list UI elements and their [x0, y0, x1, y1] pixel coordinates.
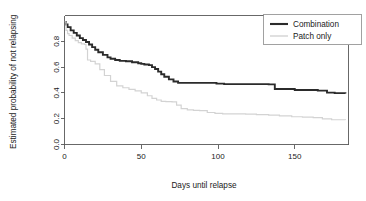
- chart-legend: Combination Patch only: [264, 15, 362, 45]
- chart-canvas: 0.00.20.40.60.8 050100150 Estimated prob…: [0, 0, 366, 201]
- y-axis: 0.00.20.40.60.8: [52, 35, 64, 150]
- x-tick-label: 100: [211, 152, 225, 161]
- x-axis-title: Days until relapse: [171, 181, 237, 190]
- y-tick-label: 0.4: [52, 87, 61, 99]
- x-tick-label: 150: [288, 152, 302, 161]
- x-axis: 050100150: [62, 145, 302, 161]
- y-tick-label: 0.8: [52, 35, 61, 47]
- legend-label-combination: Combination: [293, 20, 339, 29]
- y-axis-title: Estimated probability of not relapsing: [9, 14, 18, 149]
- y-tick-label: 0.0: [52, 138, 61, 150]
- x-tick-label: 0: [62, 152, 67, 161]
- kaplan-meier-chart: 0.00.20.40.60.8 050100150 Estimated prob…: [0, 0, 366, 201]
- legend-label-patch-only: Patch only: [293, 32, 332, 41]
- y-tick-label: 0.2: [52, 113, 61, 125]
- x-tick-label: 50: [137, 152, 146, 161]
- y-tick-label: 0.6: [52, 61, 61, 73]
